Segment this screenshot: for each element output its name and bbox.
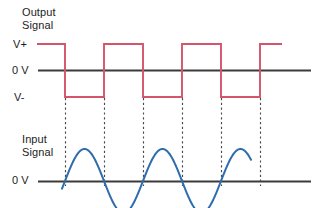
waveform-plot [0, 0, 319, 208]
dashed-guide-lines [66, 98, 261, 186]
input-sine-wave [62, 149, 251, 208]
waveform-diagram: Output Signal V+ 0 V V- Input Signal 0 V [0, 0, 319, 208]
